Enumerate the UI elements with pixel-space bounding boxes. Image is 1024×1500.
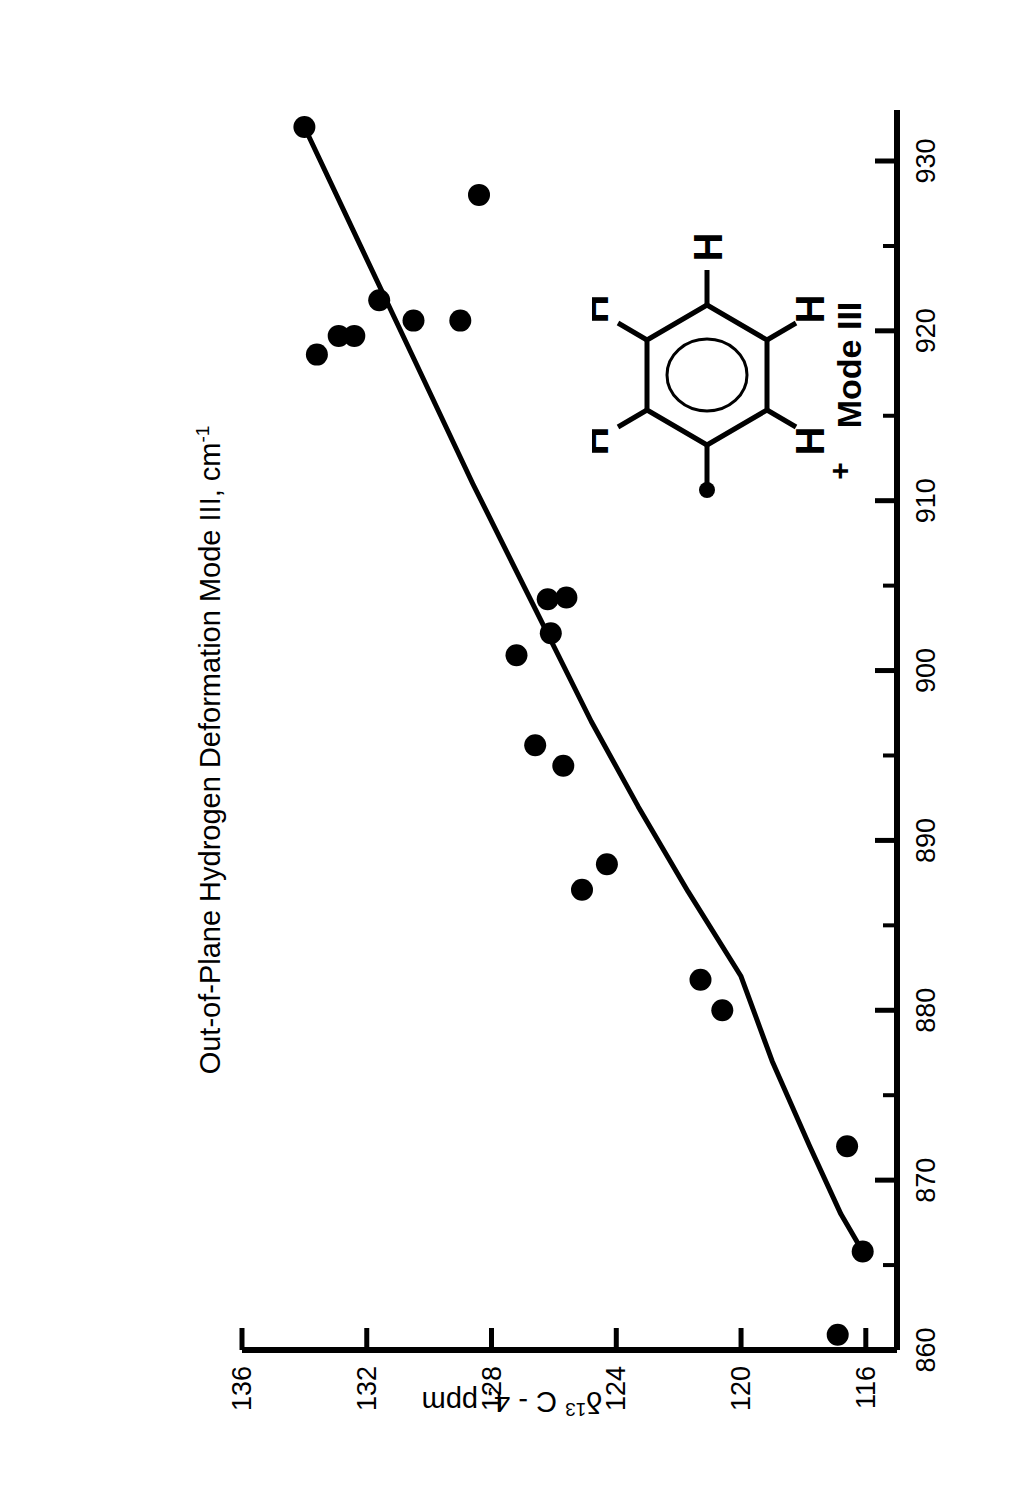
- bond-bottom-left: [767, 410, 796, 427]
- x-axis-tick-label: 910: [911, 478, 942, 523]
- data-point: [306, 344, 328, 366]
- bond-top-left: [618, 410, 647, 427]
- x-axis-tick-label: 890: [911, 818, 942, 863]
- x-axis-tick-label: 920: [911, 308, 942, 353]
- benzene-ring-hexagon: [647, 305, 767, 445]
- bond-bottom-right: [767, 323, 796, 340]
- data-point: [293, 116, 315, 138]
- scatter-chart: 860870880890900910920930 136132128124120…: [92, 80, 932, 1420]
- y-axis-title-rest: C - 4, ppm: [422, 1386, 565, 1418]
- x-axis-tick-label: 860: [911, 1327, 942, 1372]
- data-point: [690, 969, 712, 991]
- charge-label-bottom-left: +: [823, 462, 856, 480]
- y-axis-tick-label: 124: [601, 1366, 632, 1428]
- data-point: [468, 184, 490, 206]
- bond-top-right: [618, 323, 647, 340]
- data-point: [836, 1135, 858, 1157]
- hydrogen-label-bottom-right: H: [788, 295, 832, 324]
- data-point: [343, 325, 365, 347]
- data-point: [537, 588, 559, 610]
- x-axis-tick-label: 880: [911, 988, 942, 1033]
- mode-label: Mode III: [830, 302, 869, 429]
- figure-root: 860870880890900910920930 136132128124120…: [0, 0, 1024, 1500]
- data-point: [506, 644, 528, 666]
- x-axis-title-superscript: -1: [192, 426, 213, 443]
- data-point: [552, 755, 574, 777]
- x-axis-tick-label: 930: [911, 138, 942, 183]
- data-point: [596, 853, 618, 875]
- x-axis-tick-label: 870: [911, 1158, 942, 1203]
- x-axis-tick-label: 900: [911, 648, 942, 693]
- data-point: [368, 289, 390, 311]
- y-axis-title-delta: δ: [586, 1386, 602, 1418]
- hydrogen-label-top-left: H: [592, 427, 616, 456]
- data-point: [540, 622, 562, 644]
- hydrogen-label-top-right: H: [592, 295, 616, 324]
- y-axis-tick-label: 132: [351, 1366, 382, 1428]
- data-point: [449, 310, 471, 332]
- hydrogen-label-bottom-left: H: [788, 427, 832, 456]
- data-point: [571, 879, 593, 901]
- radical-dot-icon: [699, 482, 715, 498]
- y-axis-tick-label: 136: [227, 1366, 258, 1428]
- rotated-figure-wrapper: 860870880890900910920930 136132128124120…: [92, 80, 932, 1420]
- y-axis-tick-label: 120: [726, 1366, 757, 1428]
- x-axis-title-text: Out-of-Plane Hydrogen Deformation Mode I…: [194, 443, 226, 1075]
- aromatic-circle-icon: [667, 339, 747, 411]
- data-point: [827, 1324, 849, 1346]
- data-point: [711, 999, 733, 1021]
- molecule-inset: H + H H H H + Mode III: [592, 185, 892, 515]
- data-point: [524, 734, 546, 756]
- x-axis-title: Out-of-Plane Hydrogen Deformation Mode I…: [192, 426, 227, 1075]
- y-axis-title: δ13 C - 4, ppm: [422, 1385, 603, 1420]
- y-axis-tick-label: 116: [850, 1366, 881, 1428]
- y-axis-title-superscript: 13: [565, 1399, 586, 1420]
- data-point: [555, 587, 577, 609]
- data-point: [852, 1241, 874, 1263]
- hydrogen-label-right: H: [686, 233, 730, 262]
- data-point: [403, 310, 425, 332]
